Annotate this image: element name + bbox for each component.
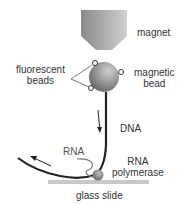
left-arrowhead — [30, 156, 37, 161]
fluorescent-bead-2 — [119, 70, 124, 75]
glass-slide-shape — [48, 180, 149, 184]
rna-label: RNA — [63, 146, 84, 157]
rna-strand — [77, 159, 95, 177]
rna-polymerase-label: RNA polymerase — [112, 156, 164, 178]
magnet-label: magnet — [137, 27, 170, 38]
dna-label: DNA — [120, 123, 141, 134]
fluorescent-bead-1 — [93, 61, 98, 66]
glass-slide-label: glass slide — [76, 190, 123, 201]
down-arrowhead — [97, 127, 102, 133]
left-arrow-icon — [34, 158, 51, 166]
fluorescent-beads-label: fluorescent beads — [16, 64, 65, 86]
magnetic-bead-label: magnetic bead — [134, 67, 175, 89]
fluorescent-bead-3 — [89, 86, 94, 91]
magnet-shape — [81, 10, 127, 50]
fluorescent-pointer-lines — [71, 65, 92, 87]
rna-polymerase-shape — [93, 170, 104, 181]
